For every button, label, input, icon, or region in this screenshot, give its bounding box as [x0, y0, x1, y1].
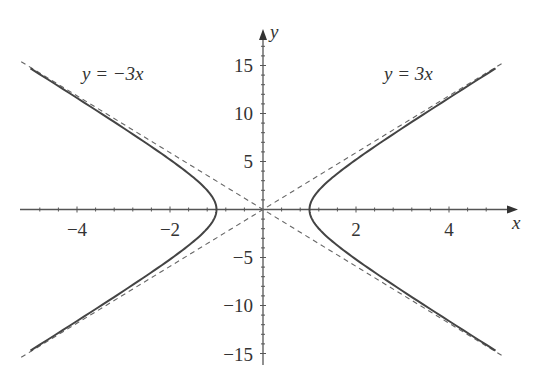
x-tick-label: −4: [67, 219, 88, 240]
x-tick-label: −2: [160, 219, 180, 240]
y-axis: [259, 29, 267, 365]
x-axis-label: x: [511, 212, 521, 233]
x-tick-label: 2: [351, 219, 361, 240]
y-tick-label: 10: [234, 103, 253, 124]
hyperbola-plot: −4 −2 2 4 15 10 5 −5 −10 −15 x y y = −3x…: [0, 0, 544, 382]
left-asymptote-label: y = −3x: [80, 63, 144, 84]
y-axis-arrow-icon: [259, 29, 267, 40]
y-axis-label: y: [268, 21, 279, 42]
right-asymptote-label: y = 3x: [382, 63, 433, 84]
y-tick-label: 15: [234, 55, 253, 76]
y-tick-label: −5: [233, 247, 253, 268]
y-tick-label: −10: [223, 295, 253, 316]
x-axis: [20, 206, 518, 214]
x-tick-label: 4: [444, 219, 454, 240]
y-tick-label: −15: [223, 344, 253, 365]
y-tick-label: 5: [244, 151, 254, 172]
